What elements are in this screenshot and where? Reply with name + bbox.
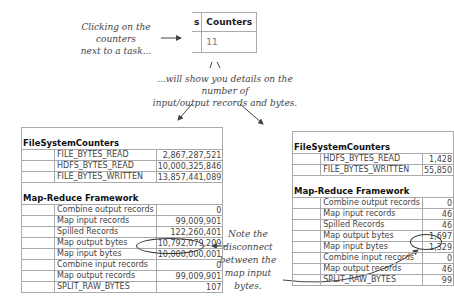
counter-value: 99,009,901 xyxy=(156,271,223,282)
counter-name: Map output records xyxy=(55,271,157,282)
partial-column-header: s xyxy=(192,13,202,32)
task-counters-table: FileSystemCounters HDFS_BYTES_READ1,428 … xyxy=(292,131,454,286)
counter-value: 46 xyxy=(423,220,454,231)
counter-name: Spilled Records xyxy=(55,227,157,238)
table-row: Combine output records0 xyxy=(293,198,454,209)
note-line: map input bytes. xyxy=(216,267,280,293)
counter-value: 0 xyxy=(156,260,223,271)
counter-name: FILE_BYTES_READ xyxy=(55,150,157,161)
note-line: Clicking on the counters xyxy=(66,21,166,45)
note-line: Note the xyxy=(216,228,280,241)
counter-value: 99 xyxy=(423,275,454,286)
counter-name: Map input records xyxy=(321,209,423,220)
task-table-snippet: s Counters 11 xyxy=(192,12,257,53)
group-title: FileSystemCounters xyxy=(22,128,223,150)
counter-name: SPLIT_RAW_BYTES xyxy=(55,282,157,293)
counter-name: Combine output records xyxy=(321,198,423,209)
table-row: Combine input records0 xyxy=(22,260,223,271)
counter-value: 0 xyxy=(156,205,223,216)
job-counters-table: FileSystemCounters FILE_BYTES_READ2,867,… xyxy=(21,127,223,293)
highlight-circle-job xyxy=(136,238,204,254)
table-row: Map input records46 xyxy=(293,209,454,220)
counter-name: Map input records xyxy=(55,216,157,227)
table-row: SPLIT_RAW_BYTES107 xyxy=(22,282,223,293)
empty-cell xyxy=(192,32,202,53)
counter-name: HDFS_BYTES_READ xyxy=(321,154,423,165)
note-line: disconnect xyxy=(216,241,280,254)
counter-name: Map output bytes xyxy=(321,231,423,242)
disconnect-annotation: Note the disconnect between the map inpu… xyxy=(216,228,280,293)
details-annotation: ...will show you details on the number o… xyxy=(140,73,310,109)
click-annotation: Clicking on the counters next to a task.… xyxy=(66,21,166,57)
group-title: FileSystemCounters xyxy=(293,132,454,154)
counter-value: 122,260,401 xyxy=(156,227,223,238)
counter-value: 46 xyxy=(423,209,454,220)
counter-value: 55,850 xyxy=(423,165,454,176)
counter-name: SPLIT_RAW_BYTES xyxy=(321,275,423,286)
counter-name: Map input bytes xyxy=(321,242,423,253)
note-line: next to a task... xyxy=(66,45,166,57)
counter-value: 10,000,325,846 xyxy=(156,161,223,172)
counter-name: Combine output records xyxy=(55,205,157,216)
note-line: input/output records and bytes. xyxy=(140,97,310,109)
table-row: FILE_BYTES_READ2,867,287,521 xyxy=(22,150,223,161)
counter-value: 2,867,287,521 xyxy=(156,150,223,161)
counter-name: Combine input records xyxy=(321,253,423,264)
table-row: Combine output records0 xyxy=(22,205,223,216)
counter-name: HDFS_BYTES_READ xyxy=(55,161,157,172)
table-row: SPLIT_RAW_BYTES99 xyxy=(293,275,454,286)
counters-column-header: Counters xyxy=(202,13,257,32)
table-row: HDFS_BYTES_READ10,000,325,846 xyxy=(22,161,223,172)
counter-name: Map output records xyxy=(321,264,423,275)
counter-value: 13,857,441,089 xyxy=(156,172,223,183)
table-row: FILE_BYTES_WRITTEN55,850 xyxy=(293,165,454,176)
counter-value: 99,009,901 xyxy=(156,216,223,227)
counter-value: 0 xyxy=(423,253,454,264)
counter-value: 1,428 xyxy=(423,154,454,165)
counter-value: 46 xyxy=(423,264,454,275)
table-row: Spilled Records46 xyxy=(293,220,454,231)
table-row: HDFS_BYTES_READ1,428 xyxy=(293,154,454,165)
table-row: FILE_BYTES_WRITTEN13,857,441,089 xyxy=(22,172,223,183)
counter-name: Combine input records xyxy=(55,260,157,271)
counters-link[interactable]: 11 xyxy=(202,32,257,53)
counter-value: 0 xyxy=(423,198,454,209)
group-title: Map-Reduce Framework xyxy=(22,183,223,205)
table-row: Spilled Records122,260,401 xyxy=(22,227,223,238)
table-row: Map input records99,009,901 xyxy=(22,216,223,227)
note-line: ...will show you details on the number o… xyxy=(140,73,310,97)
counter-name: FILE_BYTES_WRITTEN xyxy=(55,172,157,183)
table-row: Combine input records0 xyxy=(293,253,454,264)
counter-value: 107 xyxy=(156,282,223,293)
counter-name: Spilled Records xyxy=(321,220,423,231)
table-row: Map output records46 xyxy=(293,264,454,275)
group-title: Map-Reduce Framework xyxy=(293,176,454,198)
highlight-circle-task xyxy=(410,234,442,250)
counter-name: FILE_BYTES_WRITTEN xyxy=(321,165,423,176)
table-row: Map output records99,009,901 xyxy=(22,271,223,282)
note-line: between the xyxy=(216,254,280,267)
